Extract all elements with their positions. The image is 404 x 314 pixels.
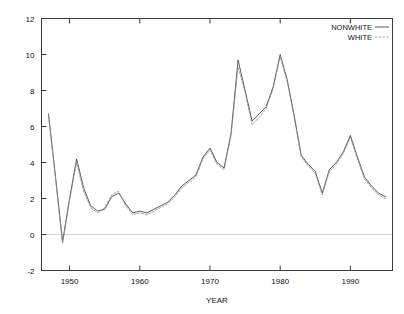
- y-tick-label: -2: [27, 267, 35, 276]
- legend-label-nonwhite: NONWHITE: [331, 23, 372, 32]
- x-tick-label: 1990: [341, 277, 359, 286]
- x-tick-label: 1980: [271, 277, 289, 286]
- x-axis-title: YEAR: [206, 296, 228, 305]
- x-tick-label: 1950: [61, 277, 79, 286]
- y-tick-label: 2: [30, 195, 35, 204]
- y-tick-label: 4: [30, 159, 35, 168]
- plot-frame: [42, 19, 393, 271]
- series-group: [49, 55, 386, 244]
- line-chart: -2024681012 19501960197019801990 YEAR NO…: [0, 0, 404, 314]
- x-tick-label: 1960: [131, 277, 149, 286]
- legend-label-white: WHITE: [348, 33, 372, 42]
- y-tick-label: 0: [30, 231, 35, 240]
- x-tick-label: 1970: [201, 277, 219, 286]
- y-tick-label: 6: [30, 123, 35, 132]
- y-tick-label: 12: [26, 15, 35, 24]
- y-tick-label: 8: [30, 87, 35, 96]
- y-tick-label: 10: [26, 51, 35, 60]
- y-axis-ticks: -2024681012: [26, 15, 47, 276]
- series-line-white: [49, 56, 386, 243]
- series-line-nonwhite: [49, 55, 386, 242]
- chart-figure: -2024681012 19501960197019801990 YEAR NO…: [0, 0, 404, 314]
- x-axis-ticks: 19501960197019801990: [61, 19, 360, 286]
- chart-legend: NONWHITEWHITE: [331, 23, 389, 42]
